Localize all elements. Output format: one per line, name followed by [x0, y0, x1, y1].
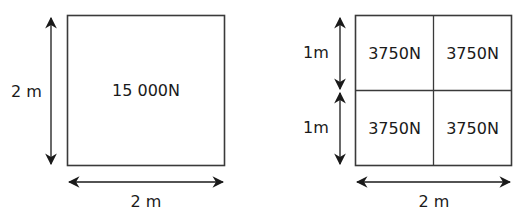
left-width-label: 2 m — [131, 194, 162, 210]
right-width-label: 2 m — [419, 194, 450, 210]
cell-top-right: 3750N — [434, 16, 511, 90]
cell-bottom-right: 3750N — [434, 91, 511, 165]
left-force-label: 15 000N — [68, 16, 224, 165]
left-height-label: 2 m — [11, 84, 42, 100]
cell-bottom-left: 3750N — [356, 91, 433, 165]
cell-top-left: 3750N — [356, 16, 433, 90]
right-height-label-top: 1m — [303, 45, 329, 61]
right-height-label-bottom: 1m — [303, 120, 329, 136]
